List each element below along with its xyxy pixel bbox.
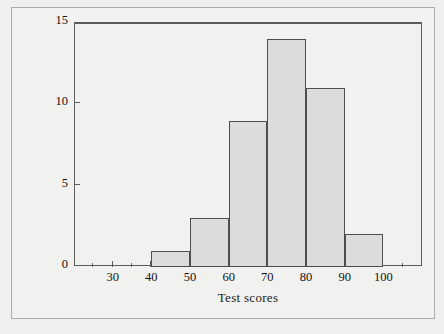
histogram-bar <box>306 88 345 267</box>
histogram-bar <box>267 39 306 267</box>
x-tick-label: 70 <box>251 270 283 285</box>
x-axis-label: Test scores <box>74 290 422 306</box>
x-tick-label: 40 <box>135 270 167 285</box>
y-tick-label: 10 <box>40 94 68 109</box>
x-tick-label: 30 <box>97 270 129 285</box>
histogram-bar <box>229 121 268 267</box>
y-tick-label: 0 <box>40 257 68 272</box>
histogram-bar <box>151 251 190 267</box>
plot-area <box>74 22 422 266</box>
x-tick-label: 50 <box>174 270 206 285</box>
histogram-bar <box>345 234 384 267</box>
x-tick-label: 100 <box>367 270 399 285</box>
histogram-bar <box>190 218 229 267</box>
x-tick-label: 90 <box>329 270 361 285</box>
y-tick-label: 15 <box>40 13 68 28</box>
chart-page: Class frequencies Test scores 0510153040… <box>0 0 444 334</box>
x-tick-label: 80 <box>290 270 322 285</box>
x-tick-label: 60 <box>213 270 245 285</box>
y-tick-label: 5 <box>40 176 68 191</box>
